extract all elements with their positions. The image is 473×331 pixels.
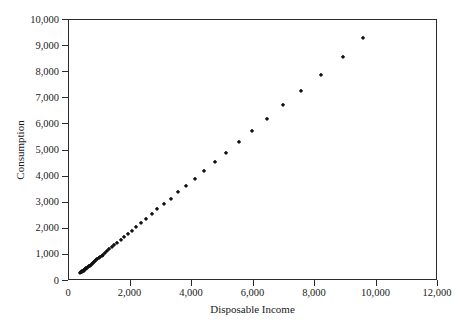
data-point [236, 140, 241, 145]
data-point [144, 217, 149, 222]
data-point [340, 55, 345, 60]
y-tick-label: 6,000 [35, 118, 59, 129]
y-tick-mark [62, 280, 68, 281]
y-tick-label: 3,000 [35, 196, 59, 207]
y-tick-label: 1,000 [35, 248, 59, 259]
data-point [299, 88, 304, 93]
data-point [184, 184, 189, 189]
x-tick-mark [130, 280, 131, 286]
y-tick-label: 10,000 [30, 14, 59, 25]
y-tick-label: 9,000 [35, 40, 59, 51]
x-tick-label: 4,000 [179, 287, 203, 298]
data-point [361, 36, 366, 41]
consumption-vs-disposable-income-chart: Consumption Disposable Income 01,0002,00… [0, 0, 473, 331]
data-point [130, 229, 135, 234]
data-point [281, 103, 286, 108]
plot-area [68, 19, 437, 280]
data-point [155, 207, 160, 212]
data-point [224, 150, 229, 155]
data-point [176, 190, 181, 195]
data-point [319, 72, 324, 77]
x-tick-label: 12,000 [423, 287, 452, 298]
y-tick-label: 4,000 [35, 170, 59, 181]
data-point [265, 117, 270, 122]
x-tick-mark [376, 280, 377, 286]
data-point [212, 160, 217, 165]
x-tick-label: 0 [65, 287, 70, 298]
y-axis-title: Consumption [12, 0, 28, 299]
x-tick-label: 2,000 [118, 287, 142, 298]
x-tick-mark [314, 280, 315, 286]
y-tick-label: 5,000 [35, 144, 59, 155]
y-axis-title-text: Consumption [14, 120, 26, 179]
data-point [168, 196, 173, 201]
data-point [134, 225, 139, 230]
y-tick-label: 8,000 [35, 66, 59, 77]
data-point [192, 176, 197, 181]
x-tick-label: 10,000 [361, 287, 390, 298]
x-tick-label: 6,000 [241, 287, 265, 298]
scatter-series [69, 20, 436, 279]
x-tick-mark [253, 280, 254, 286]
x-axis-title: Disposable Income [68, 303, 437, 315]
data-point [115, 241, 120, 246]
data-point [149, 212, 154, 217]
y-tick-label: 7,000 [35, 92, 59, 103]
y-tick-label: 0 [54, 275, 59, 286]
data-point [162, 202, 167, 207]
data-point [202, 168, 207, 173]
data-point [139, 221, 144, 226]
x-tick-label: 8,000 [302, 287, 326, 298]
y-tick-label: 2,000 [35, 222, 59, 233]
data-point [250, 129, 255, 134]
x-tick-mark [437, 280, 438, 286]
x-tick-mark [191, 280, 192, 286]
